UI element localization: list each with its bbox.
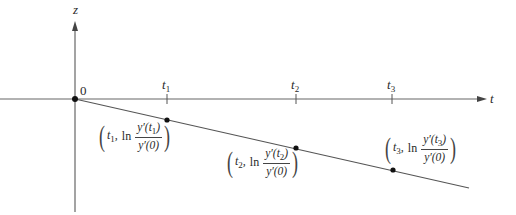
point-label-t1: ( t1, ln y′(t1) y′(0) ) [97,121,172,151]
fraction: y′(t2) y′(0) [263,147,290,177]
origin-label: 0 [80,84,87,97]
point-label-t2: ( t2, ln y′(t2) y′(0) ) [225,147,300,177]
point-t3 [390,167,395,172]
origin-point [72,96,78,102]
fraction: y′(t1) y′(0) [135,121,162,151]
tick-label-t2: t2 [291,78,299,94]
point-label-t3: ( t3, ln y′(t3) y′(0) ) [383,133,458,163]
t-axis-arrow-icon [477,96,487,102]
z-axis-arrow-icon [72,21,78,31]
tick-label-t1: t1 [162,78,170,94]
diagram-canvas [0,0,516,215]
z-axis-label: z [73,3,78,16]
t-axis-label: t [490,92,494,105]
tick-label-t3: t3 [387,78,395,94]
fraction: y′(t3) y′(0) [421,133,448,163]
